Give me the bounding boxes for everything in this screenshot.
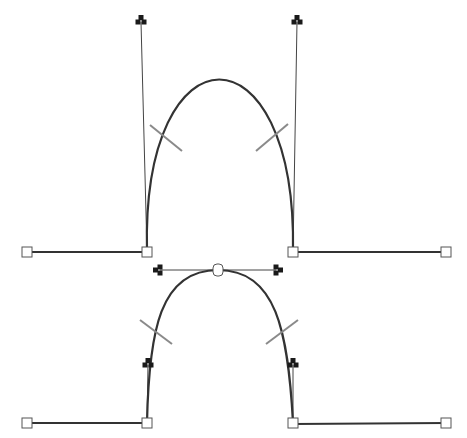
bottom-smooth-anchor[interactable] xyxy=(213,264,223,276)
bottom-right-segment xyxy=(293,423,446,424)
bottom-left-tangent-mark xyxy=(140,320,172,344)
top-anchor-4[interactable] xyxy=(441,247,451,257)
bottom-anchor-4[interactable] xyxy=(441,418,451,428)
top-right-handle-line xyxy=(293,22,297,252)
top-anchor-2[interactable] xyxy=(142,247,152,257)
top-arch-curve xyxy=(147,80,293,253)
top-right-tangent-mark xyxy=(256,124,288,151)
bottom-right-tangent-mark xyxy=(266,320,298,344)
top-anchor-3[interactable] xyxy=(288,247,298,257)
bottom-anchor-1[interactable] xyxy=(22,418,32,428)
bezier-diagram xyxy=(0,0,467,438)
top-path xyxy=(22,15,451,257)
bottom-arch-curve xyxy=(147,270,293,423)
bottom-path xyxy=(22,264,451,428)
bottom-anchor-2[interactable] xyxy=(142,418,152,428)
top-anchor-1[interactable] xyxy=(22,247,32,257)
top-left-handle-line xyxy=(141,22,147,252)
bottom-anchor-3[interactable] xyxy=(288,418,298,428)
